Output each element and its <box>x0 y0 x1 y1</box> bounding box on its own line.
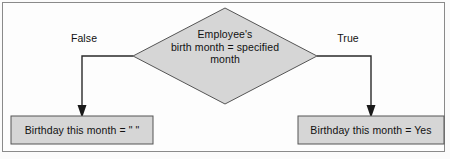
flowchart-graphics <box>0 0 450 159</box>
yes-result-box-shape <box>298 116 444 144</box>
decision-diamond-shape <box>133 8 317 104</box>
true-branch-connector <box>317 56 371 110</box>
false-branch-connector <box>82 56 133 110</box>
empty-result-box-shape <box>11 116 153 144</box>
flowchart-canvas: Employee'sbirth month = specifiedmonth F… <box>0 0 450 159</box>
